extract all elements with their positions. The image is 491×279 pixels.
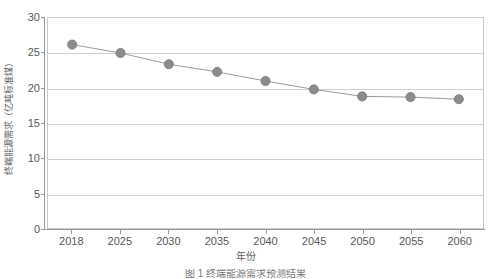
x-tick-mark-2050 [363, 230, 364, 234]
y-tick-label-0: 0 [34, 224, 40, 235]
data-point-2050 [358, 92, 367, 101]
x-axis-title: 年份 [0, 252, 491, 262]
x-tick-mark-2045 [314, 230, 315, 234]
y-tick-mark-15 [41, 123, 45, 124]
y-tick-label-20: 20 [28, 82, 40, 93]
data-point-2060 [454, 95, 463, 104]
x-tick-label-2030: 2030 [156, 236, 180, 247]
y-tick-label-5: 5 [34, 188, 40, 199]
series-line-and-markers [48, 18, 483, 228]
plot-area [47, 17, 484, 229]
y-tick-label-10: 10 [28, 153, 40, 164]
x-tick-label-2060: 2060 [447, 236, 471, 247]
y-axis-tick-labels: 051015202530 [18, 0, 44, 240]
data-point-2018 [68, 40, 77, 49]
x-tick-label-2050: 2050 [350, 236, 374, 247]
y-tick-mark-20 [41, 88, 45, 89]
x-tick-label-2040: 2040 [253, 236, 277, 247]
data-point-2055 [406, 93, 415, 102]
x-tick-label-2035: 2035 [205, 236, 229, 247]
x-tick-mark-2030 [168, 230, 169, 234]
x-axis-line [44, 229, 485, 230]
x-tick-label-2018: 2018 [59, 236, 83, 247]
x-tick-mark-2018 [71, 230, 72, 234]
data-point-2030 [164, 60, 173, 69]
y-tick-label-25: 25 [28, 47, 40, 58]
data-point-2040 [261, 76, 270, 85]
x-tick-mark-2055 [411, 230, 412, 234]
x-tick-label-2025: 2025 [108, 236, 132, 247]
figure-caption: 图 1 终端能源需求预测结果 [0, 269, 491, 279]
y-axis-title-text: 终端能源需求（亿吨标准煤） [5, 58, 14, 175]
data-point-2045 [309, 85, 318, 94]
y-tick-label-15: 15 [28, 118, 40, 129]
y-tick-mark-10 [41, 158, 45, 159]
x-tick-label-2055: 2055 [399, 236, 423, 247]
data-point-2025 [116, 48, 125, 57]
y-tick-mark-25 [41, 52, 45, 53]
y-axis-title: 终端能源需求（亿吨标准煤） [0, 0, 18, 232]
y-tick-mark-0 [41, 229, 45, 230]
x-tick-mark-2040 [266, 230, 267, 234]
x-tick-label-2045: 2045 [302, 236, 326, 247]
data-point-2035 [213, 67, 222, 76]
y-tick-label-30: 30 [28, 12, 40, 23]
y-tick-mark-5 [41, 194, 45, 195]
x-tick-mark-2035 [217, 230, 218, 234]
x-tick-mark-2025 [120, 230, 121, 234]
y-tick-mark-30 [41, 17, 45, 18]
series-line [72, 45, 459, 100]
x-tick-mark-2060 [460, 230, 461, 234]
